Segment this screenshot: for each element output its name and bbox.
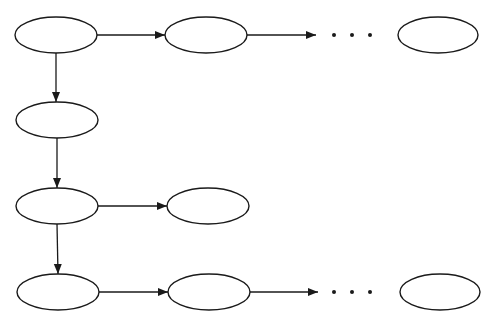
node-r4c1: [17, 274, 99, 310]
node-r1c2: [165, 17, 247, 53]
nodes: [15, 17, 480, 310]
dot-ellipsis2: [368, 290, 372, 294]
dot-ellipsis1: [332, 33, 336, 37]
dot-ellipsis1: [368, 33, 372, 37]
node-r4c2: [168, 274, 250, 310]
dot-ellipsis2: [350, 290, 354, 294]
flow-diagram: [0, 0, 496, 328]
dot-ellipsis2: [332, 290, 336, 294]
node-r3c1: [16, 188, 98, 224]
node-r1c1: [15, 17, 97, 53]
node-r4c3: [400, 274, 480, 310]
node-r2c1: [16, 102, 98, 138]
node-r3c2: [167, 188, 249, 224]
dot-ellipsis1: [350, 33, 354, 37]
arrow-r3c1-to-r4c1: [57, 224, 58, 274]
edges: [56, 35, 318, 292]
ellipsis-markers: [332, 33, 372, 294]
node-r1c3: [398, 17, 478, 53]
